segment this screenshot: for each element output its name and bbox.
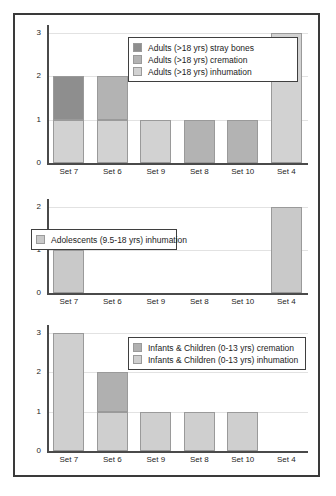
y-axis-tick-label: 0 xyxy=(27,289,41,297)
legend-item: Adults (>18 yrs) stray bones xyxy=(133,42,292,53)
y-axis xyxy=(47,25,49,163)
plot-area: 012Set 7Set 6Set 9Set 8Set 10Set 4Adoles… xyxy=(15,193,318,323)
legend-item: Infants & Children (0-13 yrs) inhumation xyxy=(133,354,300,365)
x-axis-tick-label: Set 9 xyxy=(134,297,178,306)
bar-segment xyxy=(53,250,84,293)
legend-label: Adults (>18 yrs) cremation xyxy=(148,55,247,65)
legend-item: Adolescents (9.5-18 yrs) inhumation xyxy=(36,234,171,245)
bar-segment xyxy=(53,120,84,163)
x-axis xyxy=(47,163,308,165)
legend-swatch-icon xyxy=(133,55,142,64)
bar-segment xyxy=(97,412,128,451)
y-axis-tick-label: 3 xyxy=(27,329,41,337)
chart-legend: Infants & Children (0-13 yrs) cremationI… xyxy=(128,337,306,370)
x-axis-tick-label: Set 4 xyxy=(265,455,309,464)
y-axis-tick-label: 2 xyxy=(27,72,41,80)
legend-swatch-icon xyxy=(133,355,142,364)
x-axis-tick-label: Set 9 xyxy=(134,167,178,176)
legend-swatch-icon xyxy=(133,67,142,76)
gridline xyxy=(47,372,308,373)
x-axis-tick-label: Set 6 xyxy=(91,167,135,176)
figure-frame: 0123Set 7Set 6Set 9Set 8Set 10Set 4Adult… xyxy=(13,13,320,477)
legend-label: Infants & Children (0-13 yrs) cremation xyxy=(148,343,294,353)
chart-panel-adolescents: 012Set 7Set 6Set 9Set 8Set 10Set 4Adoles… xyxy=(15,193,318,323)
chart-legend: Adolescents (9.5-18 yrs) inhumation xyxy=(31,229,177,250)
legend-label: Adults (>18 yrs) inhumation xyxy=(148,67,252,77)
legend-swatch-icon xyxy=(133,43,142,52)
y-axis-tick-label: 1 xyxy=(27,116,41,124)
y-axis-tick-label: 0 xyxy=(27,447,41,455)
bar-segment xyxy=(97,76,128,119)
legend-label: Adolescents (9.5-18 yrs) inhumation xyxy=(51,235,187,245)
bar-segment xyxy=(97,372,128,411)
gridline xyxy=(47,120,308,121)
x-axis-tick-label: Set 7 xyxy=(47,297,91,306)
bar-segment xyxy=(97,120,128,163)
plot-area: 0123Set 7Set 6Set 9Set 8Set 10Set 4Adult… xyxy=(15,15,318,193)
legend-item: Infants & Children (0-13 yrs) cremation xyxy=(133,342,300,353)
x-axis-tick-label: Set 10 xyxy=(221,297,265,306)
y-axis-tick-label: 0 xyxy=(27,159,41,167)
legend-item: Adults (>18 yrs) inhumation xyxy=(133,66,292,77)
chart-legend: Adults (>18 yrs) stray bonesAdults (>18 … xyxy=(128,37,298,82)
x-axis xyxy=(47,293,308,295)
bar-segment xyxy=(184,412,215,451)
x-axis-tick-label: Set 8 xyxy=(178,455,222,464)
gridline xyxy=(47,412,308,413)
y-axis-tick-label: 3 xyxy=(27,29,41,37)
legend-label: Adults (>18 yrs) stray bones xyxy=(148,43,254,53)
legend-swatch-icon xyxy=(36,235,45,244)
x-axis xyxy=(47,451,308,453)
y-axis-tick-label: 1 xyxy=(27,408,41,416)
gridline xyxy=(47,250,308,251)
legend-label: Infants & Children (0-13 yrs) inhumation xyxy=(148,355,298,365)
chart-panel-infants-children: 0123Set 7Set 6Set 9Set 8Set 10Set 4Infan… xyxy=(15,323,318,479)
x-axis-tick-label: Set 10 xyxy=(221,455,265,464)
bar-segment xyxy=(140,412,171,451)
bar-segment xyxy=(227,412,258,451)
x-axis-tick-label: Set 8 xyxy=(178,297,222,306)
bar-segment xyxy=(53,76,84,119)
legend-item: Adults (>18 yrs) cremation xyxy=(133,54,292,65)
x-axis-tick-label: Set 9 xyxy=(134,455,178,464)
bar-segment xyxy=(227,120,258,163)
gridline xyxy=(47,33,308,34)
chart-panel-adults: 0123Set 7Set 6Set 9Set 8Set 10Set 4Adult… xyxy=(15,15,318,193)
legend-swatch-icon xyxy=(133,343,142,352)
x-axis-tick-label: Set 6 xyxy=(91,297,135,306)
y-axis-tick-label: 2 xyxy=(27,203,41,211)
x-axis-tick-label: Set 6 xyxy=(91,455,135,464)
y-axis-tick-label: 2 xyxy=(27,368,41,376)
x-axis-tick-label: Set 7 xyxy=(47,455,91,464)
bar-segment xyxy=(53,333,84,451)
x-axis-tick-label: Set 8 xyxy=(178,167,222,176)
gridline xyxy=(47,207,308,208)
gridline xyxy=(47,333,308,334)
bar-segment xyxy=(271,207,302,293)
bar-segment xyxy=(184,120,215,163)
x-axis-tick-label: Set 7 xyxy=(47,167,91,176)
x-axis-tick-label: Set 4 xyxy=(265,297,309,306)
x-axis-tick-label: Set 4 xyxy=(265,167,309,176)
y-axis xyxy=(47,325,49,451)
x-axis-tick-label: Set 10 xyxy=(221,167,265,176)
plot-area: 0123Set 7Set 6Set 9Set 8Set 10Set 4Infan… xyxy=(15,323,318,479)
bar-segment xyxy=(140,120,171,163)
